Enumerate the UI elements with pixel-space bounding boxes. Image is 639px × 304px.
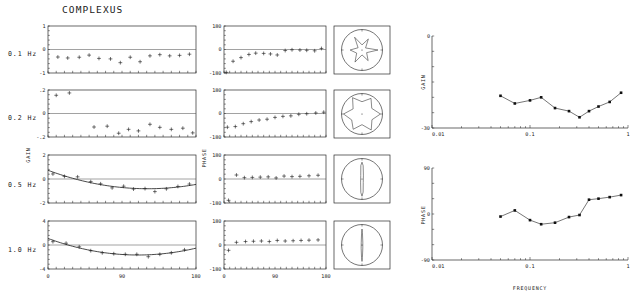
- data-point-square: [568, 216, 571, 219]
- data-point-plus: [275, 239, 279, 243]
- data-point-plus: [239, 56, 243, 60]
- data-point-plus: [297, 112, 301, 116]
- y-tick-label-gain-0.2Hz: 0: [42, 110, 45, 116]
- polar-center-dot: [362, 179, 363, 180]
- data-point-plus: [105, 124, 109, 128]
- data-point-plus: [158, 252, 162, 256]
- data-point-plus: [181, 126, 185, 130]
- y-tick-label-bode-phase: 0: [427, 211, 430, 217]
- data-point-plus: [178, 53, 182, 57]
- data-point-plus: [224, 70, 228, 74]
- data-point-plus: [92, 125, 96, 129]
- data-point-plus: [165, 187, 169, 191]
- data-point-plus: [316, 238, 320, 242]
- data-point-plus: [299, 239, 303, 243]
- bode-gain-axis-label: GAIN: [420, 74, 426, 89]
- data-point-plus: [143, 187, 147, 191]
- data-point-plus: [135, 252, 139, 256]
- data-point-plus: [235, 173, 239, 177]
- data-point-plus: [289, 114, 293, 118]
- data-point-plus: [283, 49, 287, 53]
- data-point-square: [529, 219, 532, 222]
- x-tick-label-phase-1.0Hz: 0: [222, 273, 225, 279]
- y-tick-label-bode-phase: -90: [421, 257, 430, 263]
- data-point-plus: [273, 116, 277, 120]
- figure-title: COMPLEXUS: [62, 4, 123, 15]
- plot-layer: -101-.20.2-202-404090180-1800180-1800180…: [36, 23, 629, 279]
- data-point-plus: [266, 175, 270, 179]
- data-point-plus: [123, 252, 127, 256]
- data-point-plus: [137, 129, 141, 133]
- y-tick-label-gain-1.0Hz: 4: [42, 218, 45, 224]
- y-tick-label-gain-1.0Hz: 0: [42, 242, 45, 248]
- data-point-square: [588, 110, 591, 113]
- data-point-plus: [226, 125, 230, 129]
- x-tick-label-phase-1.0Hz: 90: [272, 273, 278, 279]
- data-point-plus: [112, 252, 116, 256]
- data-point-plus: [314, 111, 318, 115]
- data-point-plus: [97, 57, 101, 61]
- x-tick-label-phase-1.0Hz: 180: [321, 273, 330, 279]
- x-tick-label-gain-1.0Hz: 90: [119, 273, 125, 279]
- data-point-plus: [298, 48, 302, 52]
- y-tick-label-phase-0.2Hz: -180: [209, 134, 222, 140]
- data-point-plus: [148, 122, 152, 126]
- y-tick-label-gain-0.1Hz: -1: [39, 70, 45, 76]
- data-point-square: [620, 91, 623, 94]
- y-tick-label-phase-0.5Hz: 180: [212, 152, 221, 158]
- data-point-square: [620, 194, 623, 197]
- x-tick-label-bode-gain: 0.1: [525, 131, 534, 137]
- data-point-plus: [231, 59, 235, 63]
- data-point-square: [540, 223, 543, 226]
- x-tick-label-bode-gain: 0.01: [432, 131, 445, 137]
- data-point-plus: [262, 52, 266, 56]
- data-point-plus: [247, 53, 251, 57]
- data-point-plus: [257, 118, 261, 122]
- data-point-plus: [269, 52, 273, 56]
- series-line-bode-phase: [501, 195, 622, 224]
- y-tick-label-phase-0.1Hz: 180: [212, 23, 221, 29]
- row-label-0: 0.1 Hz: [8, 50, 37, 58]
- data-point-plus: [67, 91, 71, 95]
- data-point-square: [499, 215, 502, 218]
- data-point-square: [608, 196, 611, 199]
- data-point-plus: [117, 131, 121, 135]
- data-point-plus: [258, 175, 262, 179]
- x-tick-label-bode-phase: 1: [626, 263, 629, 269]
- data-point-plus: [235, 240, 239, 244]
- row-label-1: 0.2 Hz: [8, 114, 37, 122]
- y-tick-label-gain-0.2Hz: .2: [39, 87, 45, 93]
- data-point-plus: [118, 61, 122, 65]
- data-point-square: [597, 197, 600, 200]
- y-tick-label-gain-0.1Hz: 1: [42, 23, 45, 29]
- data-point-square: [554, 221, 557, 224]
- data-point-plus: [109, 57, 113, 61]
- data-point-plus: [77, 55, 81, 59]
- data-point-plus: [191, 131, 195, 135]
- data-point-plus: [66, 56, 70, 60]
- data-point-plus: [132, 187, 136, 191]
- data-point-square: [608, 101, 611, 104]
- data-point-plus: [54, 93, 58, 97]
- data-point-plus: [158, 53, 162, 57]
- data-point-plus: [169, 127, 173, 131]
- data-point-square: [568, 110, 571, 113]
- data-point-plus: [260, 239, 264, 243]
- data-point-plus: [158, 125, 162, 129]
- data-point-plus: [316, 173, 320, 177]
- data-point-plus: [87, 53, 91, 57]
- y-tick-label-gain-1.0Hz: -4: [39, 266, 45, 272]
- data-point-plus: [148, 54, 152, 58]
- y-tick-label-phase-1.0Hz: 180: [212, 218, 221, 224]
- data-point-square: [540, 96, 543, 99]
- data-point-square: [578, 116, 581, 119]
- data-point-plus: [307, 238, 311, 242]
- polar-center-dot: [362, 50, 363, 51]
- y-tick-label-phase-0.1Hz: 0: [218, 46, 221, 52]
- data-point-plus: [275, 53, 279, 57]
- gain-axis-label: GAIN: [25, 147, 31, 162]
- x-tick-label-bode-phase: 0.01: [432, 263, 445, 269]
- data-point-square: [554, 107, 557, 110]
- data-point-plus: [290, 175, 294, 179]
- data-point-plus: [168, 54, 172, 58]
